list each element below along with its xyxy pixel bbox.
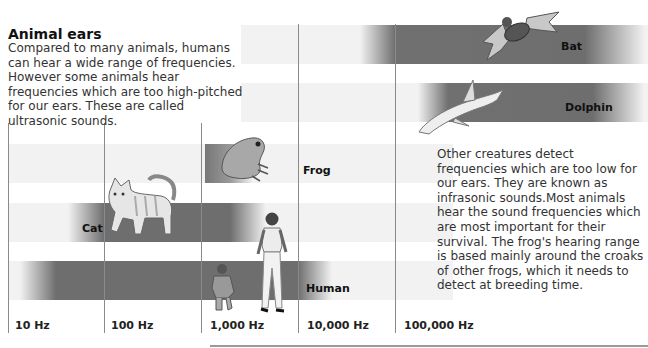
frog-icon [218, 134, 270, 182]
cat-icon [105, 172, 180, 240]
gridline-10000hz [298, 24, 299, 333]
human-child-icon [208, 262, 240, 314]
tick-label-10hz: 10 Hz [15, 319, 50, 332]
bottom-divider [210, 345, 648, 347]
human-label: Human [306, 282, 350, 295]
intro-paragraph: Compared to many animals, humans can hea… [8, 41, 244, 129]
tick-label-100hz: 100 Hz [111, 319, 153, 332]
frog-label: Frog [303, 164, 331, 177]
dolphin-icon [415, 78, 505, 138]
gridline-1000hz [201, 123, 202, 333]
gridline-10hz [8, 123, 9, 333]
tick-label-100000hz: 100,000 Hz [404, 319, 474, 332]
tick-label-10000hz: 10,000 Hz [307, 319, 369, 332]
side-paragraph: Other creatures detect frequencies which… [437, 147, 645, 293]
page-title: Animal ears [8, 26, 102, 42]
cat-label: Cat [82, 222, 103, 235]
bat-icon [475, 4, 565, 68]
tick-label-1000hz: 1,000 Hz [210, 319, 264, 332]
bat-label: Bat [561, 40, 582, 53]
dolphin-label: Dolphin [565, 101, 613, 114]
gridline-100000hz [395, 24, 396, 333]
human-woman-icon [252, 210, 292, 315]
